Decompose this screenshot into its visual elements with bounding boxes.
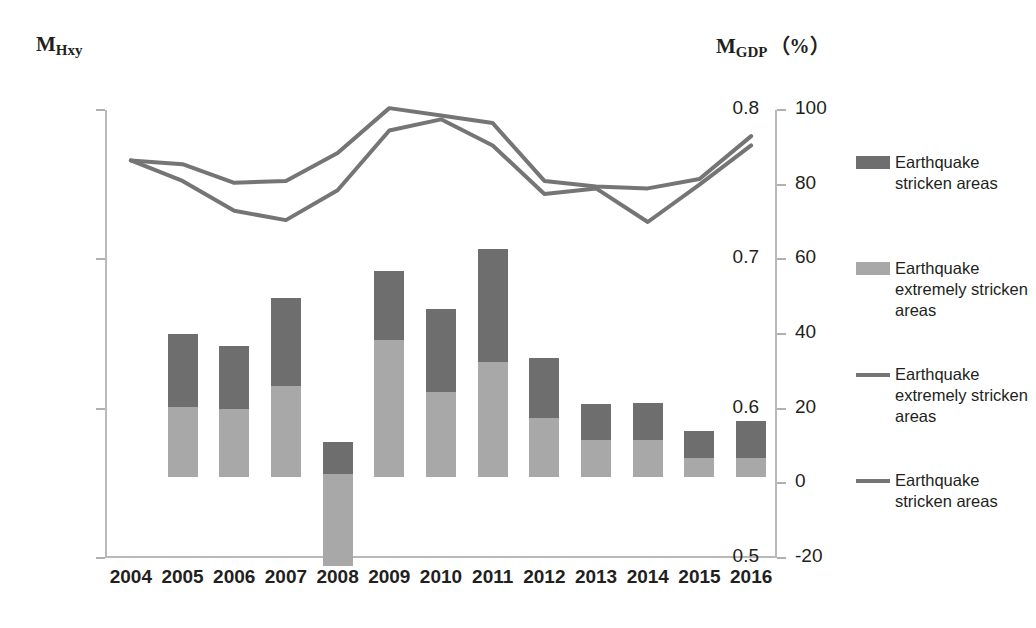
x-axis-label: 2013 (570, 566, 622, 588)
right-axis-title-unit: （%） (770, 35, 830, 57)
right-axis-title-main: M (716, 34, 736, 58)
legend-item-label: Earthquake extremely stricken areas (895, 364, 1036, 427)
right-axis-title-sub: GDP (736, 44, 768, 60)
right-tick (777, 408, 786, 410)
right-axis-title: MGDP（%） (716, 30, 830, 59)
left-tick (96, 258, 105, 260)
legend-color-swatch (856, 156, 890, 169)
legend-color-swatch (856, 262, 890, 275)
legend-item[interactable]: Earthquake extremely stricken areas (856, 258, 1036, 321)
right-tick (777, 258, 786, 260)
legend-line-swatch (856, 479, 890, 483)
legend-item-label: Earthquake stricken areas (895, 152, 1036, 194)
left-tick (96, 557, 105, 559)
left-tick (96, 109, 105, 111)
legend-item[interactable]: Earthquake stricken areas (856, 152, 1036, 194)
right-tick (777, 333, 786, 335)
right-tick-label: 0 (795, 470, 806, 492)
x-axis-label: 2006 (208, 566, 260, 588)
left-axis-title-main: M (36, 32, 56, 56)
right-tick-label: -20 (795, 545, 822, 567)
x-axis-label: 2005 (157, 566, 209, 588)
right-tick (777, 557, 786, 559)
legend-item-label: Earthquake extremely stricken areas (895, 258, 1036, 321)
x-axis-label: 2010 (415, 566, 467, 588)
left-tick (96, 408, 105, 410)
x-axis-label: 2015 (674, 566, 726, 588)
legend-item[interactable]: Earthquake stricken areas (856, 470, 1036, 512)
legend-item[interactable]: Earthquake extremely stricken areas (856, 364, 1036, 427)
x-axis-label: 2011 (467, 566, 519, 588)
plot-area: 0.50.60.70.8 -20020406080100 (105, 110, 777, 558)
x-axis-label: 2008 (312, 566, 364, 588)
x-axis-label: 2012 (519, 566, 571, 588)
right-tick-label: 40 (795, 321, 816, 343)
x-axis-label: 2004 (105, 566, 157, 588)
left-axis-title-sub: Hxy (56, 42, 83, 58)
legend-item-label: Earthquake stricken areas (895, 470, 1036, 512)
right-tick (777, 184, 786, 186)
right-tick-label: 60 (795, 246, 816, 268)
line-series (131, 119, 751, 222)
chart-figure: MHxy MGDP（%） 0.50.60.70.8 -2002040608010… (0, 0, 1036, 628)
legend-line-swatch (856, 373, 890, 377)
x-axis-label: 2014 (622, 566, 674, 588)
lines-layer (105, 110, 777, 558)
right-tick-label: 100 (795, 97, 827, 119)
right-tick (777, 109, 786, 111)
x-axis-label: 2016 (725, 566, 777, 588)
right-tick-label: 80 (795, 172, 816, 194)
x-axis-labels: 2004200520062007200820092010201120122013… (105, 566, 777, 596)
right-tick-label: 20 (795, 396, 816, 418)
right-tick (777, 482, 786, 484)
x-axis-label: 2007 (260, 566, 312, 588)
left-axis-title: MHxy (36, 32, 83, 57)
x-axis-label: 2009 (363, 566, 415, 588)
